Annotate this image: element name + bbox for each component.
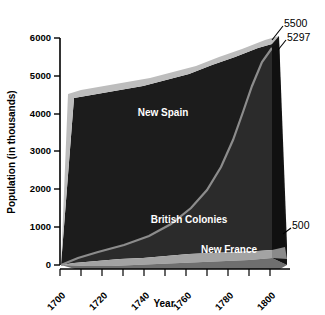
chart-svg: New Spain British Colonies New France 55…: [0, 0, 325, 315]
y-tick-label-5000: 5000: [30, 70, 51, 81]
annotation-500: 500: [283, 219, 310, 234]
x-tick-label-1700: 1700: [45, 290, 68, 313]
x-axis-title: Year: [153, 298, 174, 309]
y-axis-title: Population (in thousands): [6, 90, 17, 213]
x-axis: 1700 1720 1740 1760 1780 1800 Year: [45, 269, 290, 312]
plot-area: [61, 36, 287, 269]
annotation-label-500: 500: [292, 219, 310, 231]
series-label-british-colonies: British Colonies: [151, 214, 228, 225]
annotation-label-5500: 5500: [284, 17, 308, 29]
series-label-new-france: New France: [201, 244, 258, 255]
x-tick-label-1720: 1720: [87, 290, 110, 313]
x-tick-label-1740: 1740: [129, 290, 152, 313]
y-tick-label-4000: 4000: [30, 108, 51, 119]
y-tick-label-1000: 1000: [30, 221, 51, 232]
y-tick-label-0: 0: [46, 259, 51, 270]
population-area-chart: New Spain British Colonies New France 55…: [0, 0, 325, 315]
series-label-new-spain: New Spain: [138, 107, 189, 118]
annotation-5297: 5297: [278, 31, 311, 50]
y-tick-label-3000: 3000: [30, 145, 51, 156]
y-axis: 0 1000 2000 3000 4000 5000 6000 Populati…: [6, 32, 60, 270]
x-tick-label-1800: 1800: [255, 290, 278, 313]
x-tick-label-1780: 1780: [213, 290, 236, 313]
annotation-label-5297: 5297: [287, 31, 311, 43]
y-tick-label-2000: 2000: [30, 183, 51, 194]
y-tick-label-6000: 6000: [30, 32, 51, 43]
